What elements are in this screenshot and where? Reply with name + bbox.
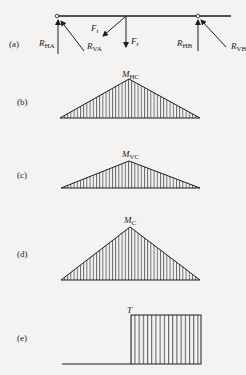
shaft-load-diagram: (a) RHA RVA Ft Fr RHB RVB (b) MHC (c) MV… xyxy=(0,0,246,375)
ft-arrow-icon xyxy=(103,17,125,36)
panel-e: (e) T xyxy=(17,305,201,364)
vertical-moment-triangle xyxy=(61,161,200,188)
bearing-a-circle xyxy=(55,14,59,18)
panel-c-label: (c) xyxy=(17,170,27,180)
panel-b: (b) MHC xyxy=(17,69,200,118)
mc-label: MC xyxy=(123,215,137,227)
rvb-label: RVB xyxy=(230,41,246,53)
panel-b-label: (b) xyxy=(17,97,28,107)
rhb-label: RHB xyxy=(176,38,193,50)
torque-label: T xyxy=(127,305,133,315)
fr-label: Fr xyxy=(130,36,140,48)
panel-d: (d) MC xyxy=(17,215,200,280)
resultant-moment-triangle xyxy=(61,227,200,280)
panel-a: (a) RHA RVA Ft Fr RHB RVB xyxy=(9,14,246,54)
panel-d-label: (d) xyxy=(17,249,28,259)
bearing-b-circle xyxy=(196,14,200,18)
rva-arrow-icon xyxy=(61,21,84,51)
ft-label: Ft xyxy=(90,23,99,35)
rvb-arrow-icon xyxy=(201,20,226,47)
panel-c: (c) MVC xyxy=(17,149,200,188)
mvc-label: MVC xyxy=(121,149,140,161)
torque-rectangle xyxy=(131,315,201,364)
panel-e-label: (e) xyxy=(17,333,27,343)
horizontal-moment-triangle xyxy=(60,79,200,118)
rha-label: RHA xyxy=(38,38,55,50)
panel-a-label: (a) xyxy=(9,39,19,49)
rva-label: RVA xyxy=(86,41,102,53)
